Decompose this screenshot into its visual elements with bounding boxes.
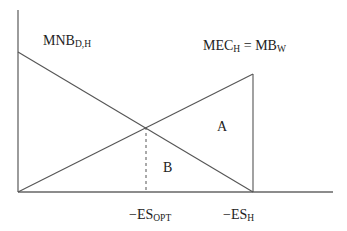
- area-b-label: B: [163, 161, 172, 175]
- mb-label-sub: W: [277, 44, 286, 54]
- mec-label: MECH = MBW: [203, 39, 286, 53]
- mec-label-main: MEC: [203, 38, 233, 53]
- mnb-label-sub: D,H: [75, 39, 91, 49]
- es-opt-label: −ESOPT: [129, 208, 171, 222]
- mec-label-sub: H: [233, 44, 240, 54]
- es-h-label-sub: H: [247, 213, 254, 223]
- es-h-label-main: −ES: [223, 207, 247, 222]
- equals-sign: =: [240, 38, 255, 53]
- es-opt-label-sub: OPT: [153, 213, 171, 223]
- es-opt-label-main: −ES: [129, 207, 153, 222]
- mnb-label-main: MNB: [43, 33, 75, 48]
- area-a-label: A: [217, 120, 227, 134]
- mnb-label: MNBD,H: [43, 34, 91, 48]
- es-h-label: −ESH: [223, 208, 254, 222]
- mb-label-main: MB: [255, 38, 277, 53]
